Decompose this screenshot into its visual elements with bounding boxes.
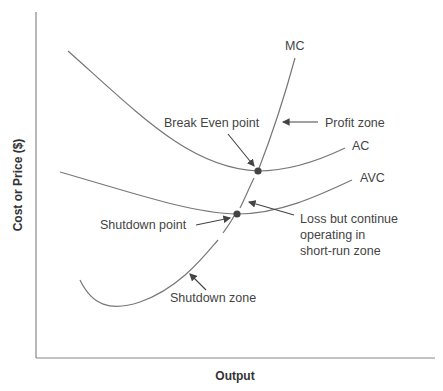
loss-zone-label-line2: operating in: [300, 228, 365, 242]
shutdown-zone-label: Shutdown zone: [170, 291, 256, 305]
break-even-point-dot: [254, 167, 261, 174]
profit-zone-label: Profit zone: [325, 116, 385, 130]
loss-zone-label-line1: Loss but continue: [300, 212, 398, 226]
shutdown-zone-arrow: [190, 274, 206, 290]
avc-curve: [60, 172, 352, 214]
cost-curves-chart: MC AC AVC Break Even point Profit zone S…: [0, 0, 443, 391]
mc-curve-upper: [258, 58, 295, 171]
ac-curve: [68, 51, 345, 171]
avc-label: AVC: [360, 171, 385, 185]
mc-curve-mid2: [240, 178, 254, 208]
x-axis-label: Output: [215, 369, 254, 383]
ac-label: AC: [352, 139, 369, 153]
break-even-arrow: [228, 134, 254, 166]
loss-zone-label-line3: short-run zone: [300, 244, 381, 258]
shutdown-point-arrow: [196, 218, 230, 225]
break-even-label: Break Even point: [164, 116, 260, 130]
mc-label: MC: [285, 39, 304, 53]
shutdown-point-dot: [233, 210, 240, 217]
y-axis-label: Cost or Price ($): [11, 139, 25, 232]
shutdown-point-label: Shutdown point: [100, 218, 187, 232]
